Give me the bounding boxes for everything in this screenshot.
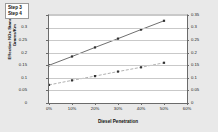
y-axis-tick-label: 0.15 [19,63,27,67]
plot-area [48,14,188,104]
y-axis-right-tick-mark [187,28,189,29]
data-point [140,66,142,68]
y-axis-right-tick-label: 0.05 [191,88,199,92]
y-axis-right-tick-label: 0.35 [191,13,199,17]
gridline [49,65,187,66]
y-axis-tick-mark [46,103,48,104]
y-axis-tick-label: 0.3 [21,25,27,29]
gridline [49,40,187,41]
y-axis-tick-mark [46,90,48,91]
gridline [49,53,187,54]
chart-container: Effective NOx Standard Grams/Km 00.050.1… [0,0,218,132]
y-axis-right-tick-label: 0.3 [191,25,197,29]
y-axis-tick-label: 0.05 [19,88,27,92]
chart-legend: Step 3 Step 4 [5,3,29,19]
x-axis-tick-mark [141,103,142,105]
y-axis-right-tick-mark [187,53,189,54]
data-point [49,84,50,86]
y-axis-tick-label: 0.25 [19,38,27,42]
x-axis-tick-mark [164,103,165,105]
legend-label-step-4: Step 4 [8,11,22,17]
data-point [94,46,96,48]
data-point [71,55,73,57]
data-point [163,20,165,22]
y-axis-right-tick-mark [187,65,189,66]
x-axis-tick-mark [187,103,188,105]
x-axis-tick-mark [118,103,119,105]
y-axis-tick-mark [46,40,48,41]
y-axis-tick-mark [46,28,48,29]
gridline [49,90,187,91]
gridline [49,28,187,29]
gridline [49,15,187,16]
y-axis-right-tick-mark [187,78,189,79]
y-axis-tick-mark [46,65,48,66]
y-axis-tick-label: 0.1 [21,76,27,80]
y-axis-right-tick-label: 0 [191,101,193,105]
y-axis-tick-mark [46,15,48,16]
y-axis-right-tick-label: 0.25 [191,38,199,42]
x-axis-tick-label: 50% [160,107,168,111]
x-axis-tick-label: 40% [137,107,145,111]
data-point [71,79,73,81]
data-point [140,28,142,30]
x-axis-tick-label: 0% [46,107,52,111]
x-axis-title: Diesel Penetration [48,119,188,124]
y-axis-tick-label: 0.2 [21,51,27,55]
x-axis-tick-mark [72,103,73,105]
x-axis-tick-mark [95,103,96,105]
y-axis-tick-mark [46,78,48,79]
x-axis-tick-label: 60% [183,107,191,111]
x-axis-tick-label: 30% [114,107,122,111]
gridline [49,78,187,79]
y-axis-right-tick-mark [187,15,189,16]
y-axis-right-tick-label: 0.2 [191,51,197,55]
x-axis-tick-label: 10% [68,107,76,111]
y-axis-right-tick-mark [187,40,189,41]
data-point [163,62,165,64]
y-axis-right-tick-label: 0.15 [191,63,199,67]
y-axis-tick-label: 0 [25,101,27,105]
y-axis-right-tick-mark [187,90,189,91]
y-axis-right-tick-label: 0.1 [191,76,197,80]
x-axis-tick-label: 20% [91,107,99,111]
legend-item-step-4: Step 4 [8,11,22,17]
x-axis-tick-mark [49,103,50,105]
y-axis-tick-mark [46,53,48,54]
data-point [117,70,119,72]
